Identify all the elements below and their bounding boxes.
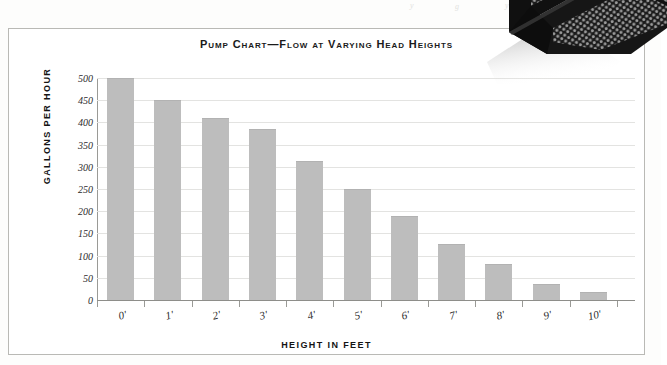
y-axis-title: GALLONS PER HOUR bbox=[42, 56, 52, 196]
x-tick-mark-10 bbox=[570, 301, 571, 307]
bar-3ft bbox=[249, 129, 276, 300]
bar-5ft bbox=[344, 189, 371, 300]
x-tick-label-7ft: 7' bbox=[448, 308, 459, 322]
x-tick-label-8ft: 8' bbox=[495, 308, 506, 322]
bar-0ft bbox=[107, 78, 134, 300]
y-tick-label-300: 300 bbox=[78, 161, 93, 172]
y-tick-label-100: 100 bbox=[78, 250, 93, 261]
x-tick-label-4ft: 4' bbox=[306, 308, 317, 322]
gridline-500 bbox=[97, 78, 635, 79]
x-tick-label-2ft: 2' bbox=[211, 308, 222, 322]
y-tick-label-50: 50 bbox=[83, 272, 93, 283]
chart-title: Pump Chart—Flow at Varying Head Heights bbox=[9, 38, 644, 50]
bar-10ft bbox=[580, 292, 607, 300]
y-tick-label-400: 400 bbox=[78, 117, 93, 128]
bleed-mark-3: y bbox=[505, 1, 510, 10]
x-tick-label-6ft: 6' bbox=[400, 308, 411, 322]
bar-1ft bbox=[154, 100, 181, 300]
bar-2ft bbox=[202, 118, 229, 300]
x-tick-mark-8 bbox=[475, 301, 476, 307]
bar-4ft bbox=[296, 161, 323, 300]
y-tick-label-150: 150 bbox=[78, 228, 93, 239]
x-tick-mark-9 bbox=[522, 301, 523, 307]
y-tick-label-200: 200 bbox=[78, 206, 93, 217]
x-tick-mark-2 bbox=[192, 301, 193, 307]
bleed-mark-1: y bbox=[410, 1, 415, 10]
plot-area bbox=[97, 78, 617, 300]
chart-frame: Pump Chart—Flow at Varying Head Heights … bbox=[8, 28, 645, 355]
x-tick-mark-4 bbox=[286, 301, 287, 307]
y-axis-tick-labels: 050100150200250300350400450500 bbox=[53, 78, 93, 300]
bar-6ft bbox=[391, 216, 418, 300]
x-tick-mark-5 bbox=[333, 301, 334, 307]
x-tick-label-9ft: 9' bbox=[542, 308, 553, 322]
y-tick-label-350: 350 bbox=[78, 139, 93, 150]
y-tick-label-500: 500 bbox=[78, 73, 93, 84]
y-tick-label-0: 0 bbox=[88, 295, 93, 306]
x-tick-label-3ft: 3' bbox=[259, 308, 270, 322]
bar-7ft bbox=[438, 244, 465, 300]
bar-8ft bbox=[485, 264, 512, 300]
x-tick-mark-7 bbox=[428, 301, 429, 307]
bleed-mark-2: g bbox=[455, 2, 460, 11]
x-tick-label-5ft: 5' bbox=[353, 308, 364, 322]
x-tick-label-1ft: 1' bbox=[164, 308, 175, 322]
x-tick-mark-6 bbox=[381, 301, 382, 307]
x-tick-mark-end bbox=[617, 301, 618, 307]
x-tick-mark-3 bbox=[239, 301, 240, 307]
y-tick-label-250: 250 bbox=[78, 184, 93, 195]
bar-9ft bbox=[533, 284, 560, 300]
x-axis-tick-labels: 0'1'2'3'4'5'6'7'8'9'10' bbox=[97, 309, 617, 335]
x-tick-mark-1 bbox=[144, 301, 145, 307]
x-tick-mark-0 bbox=[97, 301, 98, 307]
x-axis-title: HEIGHT IN FEET bbox=[9, 340, 644, 350]
x-tick-label-0ft: 0' bbox=[117, 308, 128, 322]
x-tick-label-10ft: 10' bbox=[587, 307, 603, 322]
y-tick-label-450: 450 bbox=[78, 95, 93, 106]
